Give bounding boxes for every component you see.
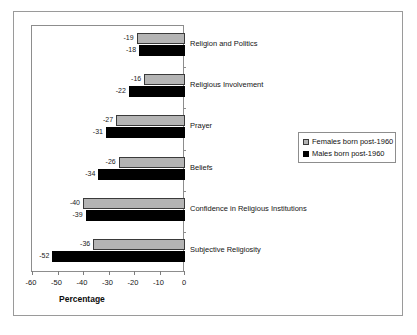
legend-label-females: Females born post-1960: [312, 137, 393, 147]
bar-female-2: [116, 115, 185, 126]
category-label: Prayer: [190, 121, 212, 131]
bar-value-label: -16: [127, 74, 141, 83]
category-label: Religious Involvement: [190, 80, 263, 90]
category-label: Beliefs: [190, 163, 213, 173]
x-axis-tick: [109, 271, 110, 275]
legend-item-males[interactable]: Males born post-1960: [303, 148, 391, 160]
y-axis-tick: [183, 108, 186, 109]
x-axis-tick: [184, 271, 185, 275]
bar-female-3: [119, 157, 185, 168]
bar-value-label: -27: [99, 115, 113, 124]
x-axis-tick-label: 0: [182, 278, 186, 288]
x-axis-tick: [32, 271, 33, 275]
x-axis-tick-label: -60: [26, 278, 37, 288]
bar-value-label: -31: [89, 127, 103, 136]
legend-swatch-males-icon: [303, 151, 309, 157]
x-axis-tick: [134, 271, 135, 275]
bar-value-label: -18: [122, 45, 136, 54]
bar-male-2: [106, 127, 185, 138]
bar-value-label: -52: [35, 251, 49, 260]
plot-area: [31, 25, 184, 272]
bar-female-0: [137, 33, 185, 44]
bar-value-label: -36: [76, 239, 90, 248]
x-axis-title: Percentage: [59, 294, 105, 304]
x-axis-tick-label: -30: [102, 278, 113, 288]
bar-value-label: -19: [120, 33, 134, 42]
category-label: Confidence in Religious Institutions: [190, 204, 307, 214]
legend-label-males: Males born post-1960: [312, 149, 385, 159]
bar-male-0: [139, 45, 185, 56]
legend-item-females[interactable]: Females born post-1960: [303, 136, 391, 148]
bar-male-5: [52, 251, 185, 262]
bars-layer: [32, 26, 183, 271]
bar-male-1: [129, 86, 185, 97]
bar-value-label: -22: [112, 86, 126, 95]
x-axis-tick-label: -10: [153, 278, 164, 288]
chart-figure: -19-18Religion and Politics-16-22Religio…: [0, 0, 417, 335]
x-axis-tick: [83, 271, 84, 275]
y-axis-tick: [183, 67, 186, 68]
y-axis-tick: [183, 232, 186, 233]
category-label: Subjective Religiosity: [190, 245, 261, 255]
y-axis-tick: [183, 150, 186, 151]
x-axis-tick: [58, 271, 59, 275]
bar-value-label: -40: [66, 198, 80, 207]
bar-value-label: -26: [102, 157, 116, 166]
x-axis-tick-label: -40: [77, 278, 88, 288]
y-axis-tick: [183, 191, 186, 192]
legend-swatch-females-icon: [303, 139, 309, 145]
bar-female-1: [144, 74, 185, 85]
x-axis-tick-label: -50: [51, 278, 62, 288]
bar-value-label: -34: [81, 169, 95, 178]
chart-legend: Females born post-1960 Males born post-1…: [298, 132, 396, 163]
category-label: Religion and Politics: [190, 39, 258, 49]
bar-value-label: -39: [69, 210, 83, 219]
bar-male-4: [86, 210, 185, 221]
x-axis-tick-label: -20: [128, 278, 139, 288]
x-axis-tick: [160, 271, 161, 275]
bar-female-4: [83, 198, 185, 209]
bar-male-3: [98, 169, 185, 180]
bar-female-5: [93, 239, 185, 250]
